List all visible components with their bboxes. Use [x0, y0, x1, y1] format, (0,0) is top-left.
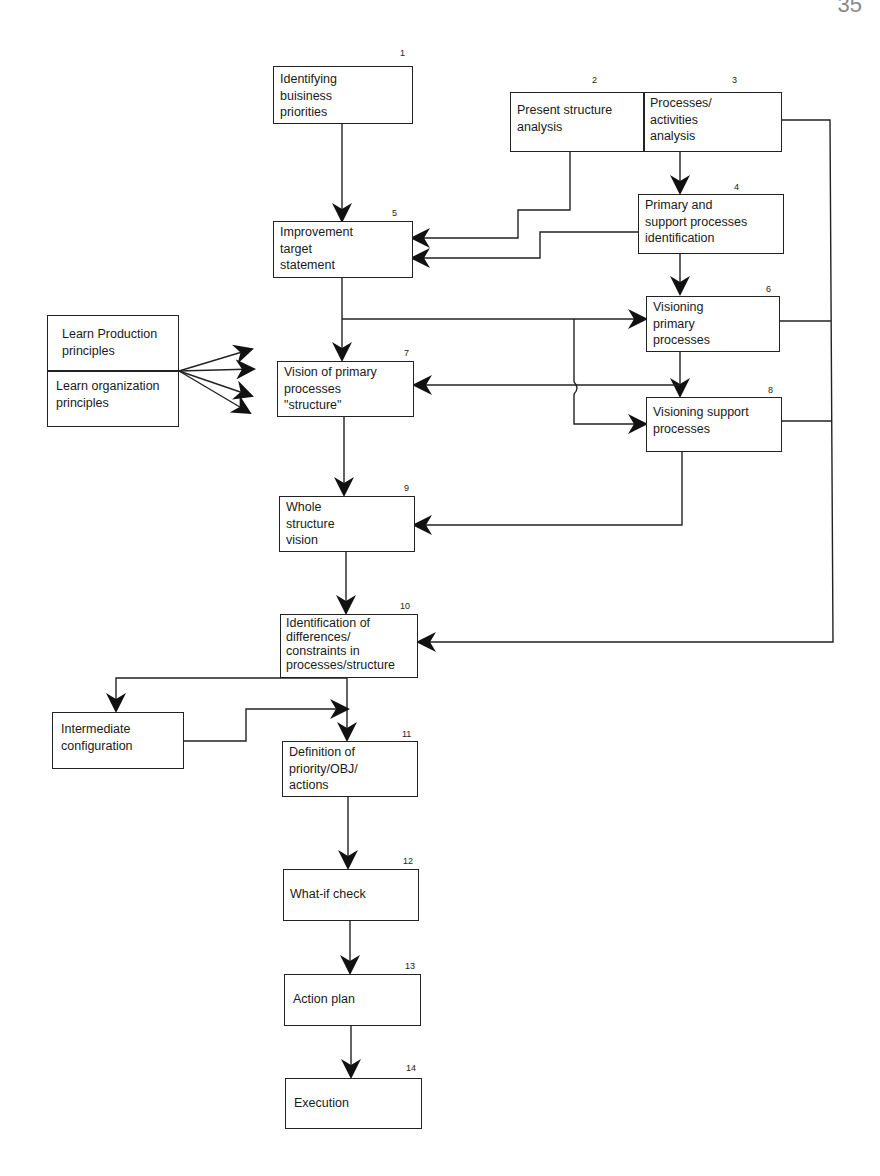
node-label: actions: [289, 777, 411, 794]
node-label: Whole: [286, 499, 408, 516]
node-label: support processes: [645, 214, 777, 231]
node-number: 13: [405, 961, 415, 971]
node-number: 4: [734, 182, 739, 192]
node-action-plan[interactable]: Action plan: [284, 974, 421, 1026]
node-identification-differences-constraints[interactable]: Identification of differences/ constrain…: [280, 614, 418, 678]
connectors: [0, 0, 880, 1176]
node-label: configuration: [61, 738, 175, 755]
node-label: Vision of primary: [284, 364, 407, 381]
node-label: processes: [284, 381, 407, 398]
node-primary-support-processes-identification[interactable]: Primary and support processes identifica…: [638, 194, 784, 254]
node-label: processes: [653, 421, 775, 438]
node-label: Action plan: [293, 991, 412, 1008]
node-label: Execution: [294, 1095, 413, 1112]
node-processes-activities-analysis[interactable]: Processes/ activities analysis: [650, 95, 774, 145]
node-visioning-primary-processes[interactable]: Visioning primary processes: [646, 296, 780, 352]
divider: [643, 93, 645, 151]
node-number: 5: [392, 208, 397, 218]
node-label: Definition of: [289, 744, 411, 761]
node-label: priorities: [280, 104, 406, 121]
node-number: 14: [406, 1063, 416, 1073]
node-label: differences/: [286, 630, 412, 644]
node-execution[interactable]: Execution: [285, 1078, 422, 1129]
node-intermediate-configuration[interactable]: Intermediate configuration: [52, 712, 184, 769]
node-label: Primary and: [645, 197, 777, 214]
node-visioning-support-processes[interactable]: Visioning support processes: [646, 397, 782, 452]
node-number: 8: [768, 385, 773, 395]
node-whole-structure-vision[interactable]: Whole structure vision: [279, 496, 415, 552]
node-label: processes: [653, 332, 773, 349]
divider: [48, 370, 178, 372]
node-improvement-target-statement[interactable]: Improvement target statement: [273, 221, 413, 278]
node-vision-primary-processes-structure[interactable]: Vision of primary processes "structure": [277, 361, 414, 417]
node-present-structure-analysis[interactable]: Present structure analysis: [517, 102, 641, 135]
node-label: identification: [645, 230, 777, 247]
node-label: Improvement: [280, 224, 406, 241]
node-label: analysis: [650, 128, 774, 145]
node-number: 9: [404, 483, 409, 493]
node-number: 11: [402, 729, 411, 739]
node-label: constraints in: [286, 644, 412, 658]
node-label: Visioning: [653, 299, 773, 316]
node-label: statement: [280, 257, 406, 274]
node-number: 10: [400, 601, 410, 611]
node-learn-principles-group: Learn Production principles Learn organi…: [47, 315, 179, 427]
node-label: Identification of: [286, 616, 412, 630]
node-analysis-group: Present structure analysis Processes/ ac…: [510, 92, 782, 152]
node-label: principles: [56, 395, 160, 412]
node-label: Learn organization: [56, 378, 160, 395]
node-label: priority/OBJ/: [289, 761, 411, 778]
node-number: 7: [404, 348, 409, 358]
node-label: structure: [286, 516, 408, 533]
node-label: Identifying: [280, 71, 406, 88]
node-learn-production-principles[interactable]: Learn Production principles: [62, 326, 157, 359]
node-number: 12: [403, 856, 413, 866]
node-what-if-check[interactable]: What-if check: [283, 869, 419, 921]
node-label: analysis: [517, 119, 641, 136]
node-label: principles: [62, 343, 157, 360]
node-number: 2: [592, 75, 597, 85]
node-number: 1: [400, 48, 405, 58]
node-label: target: [280, 241, 406, 258]
node-label: What-if check: [290, 886, 412, 903]
node-label: Visioning support: [653, 404, 775, 421]
node-label: primary: [653, 316, 773, 333]
node-definition-priority-obj-actions[interactable]: Definition of priority/OBJ/ actions: [282, 741, 418, 797]
node-label: vision: [286, 532, 408, 549]
node-label: Learn Production: [62, 326, 157, 343]
node-learn-organization-principles[interactable]: Learn organization principles: [56, 378, 160, 411]
node-label: Intermediate: [61, 721, 175, 738]
node-number: 6: [766, 284, 771, 294]
node-identifying-business-priorities[interactable]: Identifying buisiness priorities: [273, 66, 413, 124]
node-label: Processes/: [650, 95, 774, 112]
node-label: buisiness: [280, 88, 406, 105]
node-label: activities: [650, 112, 774, 129]
node-label: Present structure: [517, 102, 641, 119]
node-label: "structure": [284, 397, 407, 414]
node-label: processes/structure: [286, 658, 412, 672]
node-number: 3: [732, 75, 737, 85]
